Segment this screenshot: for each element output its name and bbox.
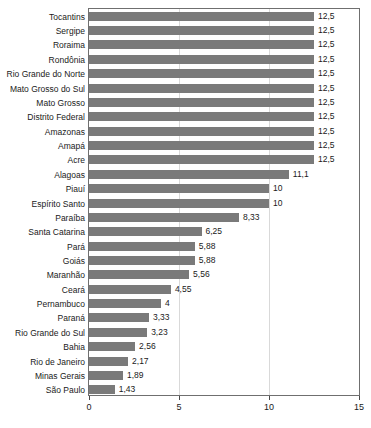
category-label: Minas Gerais [0,371,85,382]
category-label: Piauí [0,184,85,195]
bar-row: 12,5 [89,12,359,21]
bar-row: 5,56 [89,270,359,279]
category-label: Goiás [0,256,85,267]
category-label: Mato Grosso do Sul [0,84,85,95]
bar [89,112,314,121]
category-label: Tocantins [0,12,85,23]
bar-value-label: 4 [165,297,170,309]
bar [89,357,128,366]
bar-value-label: 1,43 [119,383,136,395]
bar [89,40,314,49]
bar-row: 12,5 [89,26,359,35]
bar-value-label: 12,5 [318,24,335,36]
category-axis-labels: TocantinsSergipeRoraimaRondôniaRio Grand… [0,8,85,396]
bar-value-label: 12,5 [318,10,335,22]
category-label: Mato Grosso [0,98,85,109]
bar-row: 1,89 [89,371,359,380]
bar [89,26,314,35]
bar [89,285,171,294]
bar-row: 8,33 [89,213,359,222]
category-label: Roraima [0,40,85,51]
category-label: Rio de Janeiro [0,357,85,368]
category-label: Paraíba [0,213,85,224]
bar [89,313,149,322]
bar-row: 4 [89,299,359,308]
bar-row: 6,25 [89,227,359,236]
bar-value-label: 5,56 [193,268,210,280]
x-tick-label: 15 [354,402,364,412]
bar [89,199,269,208]
bar-value-label: 12,5 [318,53,335,65]
category-label: Rio Grande do Norte [0,69,85,80]
bar-value-label: 10 [273,182,282,194]
x-tick-label: 0 [86,402,91,412]
bar-row: 10 [89,184,359,193]
bar-chart: 12,512,512,512,512,512,512,512,512,512,5… [0,0,371,428]
x-tick-label: 5 [176,402,181,412]
bar-value-label: 4,55 [175,283,192,295]
category-label: Rondônia [0,55,85,66]
bar [89,55,314,64]
bar-value-label: 5,88 [199,254,216,266]
bar [89,155,314,164]
bar-value-label: 12,5 [318,82,335,94]
bar-value-label: 12,5 [318,38,335,50]
bar-value-label: 3,33 [153,311,170,323]
category-label: Santa Catarina [0,227,85,238]
bar [89,227,202,236]
bar-value-label: 12,5 [318,67,335,79]
bar-value-label: 12,5 [318,153,335,165]
bar-row: 12,5 [89,84,359,93]
bar [89,256,195,265]
category-label: Pernambuco [0,299,85,310]
bar-row: 2,17 [89,357,359,366]
category-label: Paraná [0,313,85,324]
category-label: São Paulo [0,385,85,396]
bar [89,385,115,394]
bar-row: 12,5 [89,127,359,136]
bar [89,328,147,337]
bar-row: 5,88 [89,242,359,251]
bar-row: 12,5 [89,141,359,150]
bar-value-label: 12,5 [318,110,335,122]
bar [89,299,161,308]
bar-value-label: 2,56 [139,340,156,352]
bar-value-label: 3,23 [151,326,168,338]
x-tick-mark [89,396,90,400]
category-label: Espírito Santo [0,199,85,210]
bar-value-label: 5,88 [199,240,216,252]
x-axis: 051015 [88,396,360,428]
category-label: Sergipe [0,26,85,37]
bar-value-label: 12,5 [318,96,335,108]
bar-row: 2,56 [89,342,359,351]
bar [89,170,289,179]
bar-row: 1,43 [89,385,359,394]
category-label: Amazonas [0,127,85,138]
bar [89,12,314,21]
category-label: Rio Grande do Sul [0,328,85,339]
category-label: Maranhão [0,270,85,281]
category-label: Ceará [0,285,85,296]
bar-row: 12,5 [89,69,359,78]
bar-value-label: 10 [273,197,282,209]
bar [89,84,314,93]
bar [89,98,314,107]
bar-value-label: 2,17 [132,355,149,367]
bar-row: 12,5 [89,40,359,49]
category-label: Acre [0,155,85,166]
bar-row: 3,23 [89,328,359,337]
bar [89,371,123,380]
bar-row: 12,5 [89,55,359,64]
bar-value-label: 8,33 [243,211,260,223]
category-label: Amapá [0,141,85,152]
bar [89,242,195,251]
bar [89,342,135,351]
category-label: Distrito Federal [0,112,85,123]
bar [89,213,239,222]
bar-value-label: 6,25 [206,225,223,237]
bar-value-label: 1,89 [127,369,144,381]
bar-row: 12,5 [89,98,359,107]
bars-layer: 12,512,512,512,512,512,512,512,512,512,5… [89,9,359,395]
category-label: Alagoas [0,170,85,181]
bar [89,127,314,136]
